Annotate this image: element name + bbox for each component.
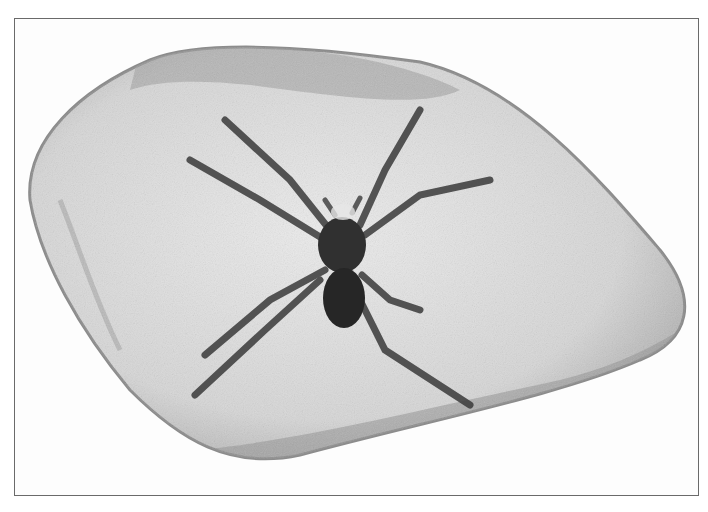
spider-abdomen [323, 268, 365, 328]
spider-cephalothorax [318, 217, 366, 273]
amber-photograph [0, 0, 708, 512]
spider-head-highlight [331, 204, 355, 220]
